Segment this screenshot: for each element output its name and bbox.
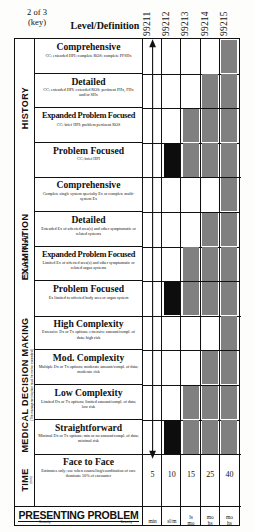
level-definition-header: Level/Definition bbox=[62, 20, 148, 31]
definition-title: Detailed bbox=[38, 214, 139, 225]
definition-subtext: Limited Dx or Tx options; limited amount… bbox=[38, 399, 139, 409]
definition-title: Problem Focused bbox=[38, 145, 139, 156]
definition-subtext: CC; extended HPI; extended ROS; pertinen… bbox=[38, 87, 139, 97]
section-label-medical-decision-making: MEDICAL DECISION MAKING(The management o… bbox=[15, 316, 35, 454]
section-label-time: TIME(min) bbox=[15, 454, 35, 506]
definition-cell: Mod. ComplexityMultiple Dx or Tx options… bbox=[35, 350, 143, 385]
definition-title: Expanded Problem Focused bbox=[38, 249, 139, 260]
code-columns bbox=[143, 39, 239, 525]
key-label: 2 of 3 (key) bbox=[14, 8, 60, 27]
time-definition-cell: Face to FaceEstimates only; use when cou… bbox=[35, 454, 143, 506]
code-header-99213: 99213 bbox=[180, 2, 200, 36]
column-99215 bbox=[220, 39, 239, 525]
definition-subtext: Extended Ex of affected area(s) and othe… bbox=[38, 226, 139, 236]
column-99211 bbox=[143, 39, 162, 525]
definition-title: Comprehensive bbox=[38, 179, 139, 190]
nurse-visit-label: "Nurse Visit" bbox=[13, 207, 37, 303]
section-label-history: HISTORY bbox=[15, 39, 35, 177]
code-header-99211: 99211 bbox=[142, 2, 162, 36]
definition-subtext: CC; extended HPI; complete ROS; complete… bbox=[38, 53, 139, 58]
definition-title: Mod. Complexity bbox=[38, 352, 139, 363]
key-line-2: (key) bbox=[14, 18, 60, 28]
presenting-problem-banner: PRESENTING PROBLEMSeveritySeverity bbox=[15, 506, 143, 525]
chart-frame: HISTORYComprehensiveCC; extended HPI; co… bbox=[14, 38, 240, 526]
definition-subtext: Limited Ex of affected area(s) and other… bbox=[38, 260, 139, 270]
definition-cell: Expanded Problem FocusedLimited Ex of af… bbox=[35, 247, 143, 282]
definition-subtext: Multiple Dx or Tx options; moderate amou… bbox=[38, 364, 139, 374]
code-header-99212: 99212 bbox=[161, 2, 181, 36]
definition-title: High Complexity bbox=[38, 318, 139, 329]
time-title: Face to Face bbox=[38, 456, 139, 467]
time-subtext: Estimates only; use when counseling/coor… bbox=[38, 468, 139, 478]
definition-subtext: CC; brief HPI; problem pertinent ROS bbox=[38, 122, 139, 127]
chart-header: 2 of 3 (key) Level/Definition 9921199212… bbox=[0, 0, 254, 38]
definition-cell: StraightforwardMinimal Dx or Tx options;… bbox=[35, 420, 143, 455]
column-99214 bbox=[201, 39, 220, 525]
definition-cell: Problem FocusedCC; brief HPI bbox=[35, 143, 143, 178]
definition-title: Problem Focused bbox=[38, 283, 139, 294]
definition-title: Comprehensive bbox=[38, 41, 139, 52]
definition-subtext: CC; brief HPI bbox=[38, 156, 139, 161]
definition-subtext: Minimal Dx or Tx options; min or no amou… bbox=[38, 433, 139, 443]
code-header-99214: 99214 bbox=[200, 2, 220, 36]
definition-cell: DetailedCC; extended HPI; extended ROS; … bbox=[35, 74, 143, 109]
code-header-99215: 99215 bbox=[219, 2, 239, 36]
definition-subtext: Complete single system specialty Ex or c… bbox=[38, 191, 139, 201]
definition-subtext: Ex limited to affected body area or orga… bbox=[38, 295, 139, 300]
definition-cell: Expanded Problem FocusedCC; brief HPI; p… bbox=[35, 108, 143, 143]
definition-subtext: Extensive Dx or Tx options; extensive am… bbox=[38, 329, 139, 339]
definition-cell: ComprehensiveComplete single system spec… bbox=[35, 177, 143, 212]
presenting-problem-flank-right: Severity bbox=[120, 520, 132, 524]
definition-cell: Problem FocusedEx limited to affected bo… bbox=[35, 281, 143, 316]
presenting-problem-flank-left: Severity bbox=[39, 520, 51, 524]
em-coding-reference-chart: 2 of 3 (key) Level/Definition 9921199212… bbox=[0, 0, 254, 532]
definition-cell: ComprehensiveCC; extended HPI; complete … bbox=[35, 39, 143, 74]
definition-title: Straightforward bbox=[38, 422, 139, 433]
definition-cell: Low ComplexityLimited Dx or Tx options; … bbox=[35, 385, 143, 420]
column-99213 bbox=[181, 39, 200, 525]
definition-cell: DetailedExtended Ex of affected area(s) … bbox=[35, 212, 143, 247]
definition-title: Low Complexity bbox=[38, 387, 139, 398]
definition-title: Detailed bbox=[38, 76, 139, 87]
definition-title: Expanded Problem Focused bbox=[38, 110, 139, 121]
definition-cell: High ComplexityExtensive Dx or Tx option… bbox=[35, 316, 143, 351]
column-99212 bbox=[162, 39, 181, 525]
